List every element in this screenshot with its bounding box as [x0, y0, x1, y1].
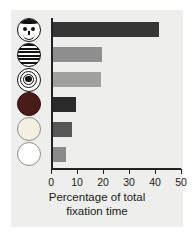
x-axis-line — [51, 168, 181, 170]
x-tick-mark-10 — [77, 169, 78, 174]
x-axis-title: Percentage of total fixation time — [11, 191, 183, 218]
x-tick-mark-40 — [155, 169, 156, 174]
bulls-eye-center-icon — [25, 76, 32, 83]
x-tick-label-50: 50 — [175, 176, 186, 188]
x-tick-mark-30 — [129, 169, 130, 174]
x-axis-title-line-1: Percentage of total — [11, 191, 183, 205]
x-tick-label-30: 30 — [123, 176, 134, 188]
red-disc-icon — [17, 92, 41, 116]
y-axis-line — [51, 18, 53, 168]
x-tick-label-40: 40 — [149, 176, 160, 188]
bar-yellow-disc — [53, 122, 73, 137]
face-hair-icon — [17, 18, 41, 24]
stimulus-icon-stripes — [14, 43, 44, 67]
stimulus-icon-red-disc — [14, 92, 44, 116]
stripes-icon — [17, 43, 41, 67]
figure-bar-chart: 01020304050 Percentage of total fixation… — [0, 0, 194, 236]
face-mouth-icon — [23, 33, 35, 40]
face-right-eye-icon — [31, 27, 35, 31]
x-tick-label-10: 10 — [71, 176, 82, 188]
x-tick-mark-20 — [103, 169, 104, 174]
stimulus-icon-column — [14, 18, 45, 166]
x-tick-label-20: 20 — [97, 176, 108, 188]
stimulus-icon-bulls-eye — [14, 68, 44, 92]
stimulus-icon-white-disc — [14, 142, 44, 166]
face-left-eye-icon — [23, 27, 27, 31]
bar-bull-s-eye — [53, 72, 101, 87]
x-tick-mark-50 — [181, 169, 182, 174]
stimulus-icon-yellow-disc — [14, 117, 44, 141]
x-axis-title-line-2: fixation time — [11, 205, 183, 219]
yellow-disc-icon — [17, 117, 41, 141]
bar-white-disc — [53, 147, 66, 162]
bulls-eye-icon — [17, 68, 41, 92]
white-disc-icon — [17, 142, 41, 166]
stimulus-icon-schematic-face — [14, 18, 44, 42]
bar-red-disc — [53, 97, 76, 112]
bar-schematic-face — [53, 22, 160, 37]
x-tick-mark-0 — [51, 169, 52, 174]
plot-area: 01020304050 — [51, 18, 181, 168]
x-tick-label-0: 0 — [48, 176, 54, 188]
bar-horizontal-stripes — [53, 47, 102, 62]
